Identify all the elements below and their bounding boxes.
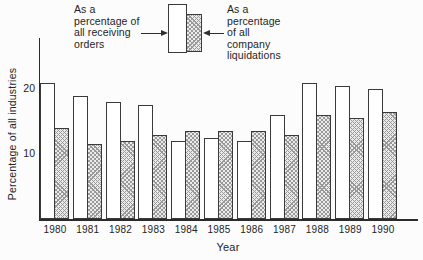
bar-company-liquidations-1986 [251, 131, 266, 219]
legend-label-company-liquidations: As a percentage of all company liquidati… [227, 4, 281, 62]
bar-receiving-orders-1988 [302, 83, 317, 220]
legend-arrow-right-icon [141, 33, 161, 34]
bar-receiving-orders-1986 [237, 141, 252, 219]
bar-receiving-orders-1980 [40, 83, 55, 220]
x-tick-1987: 1987 [268, 224, 302, 235]
x-axis-title: Year [178, 241, 278, 253]
bar-receiving-orders-1990 [368, 89, 383, 219]
x-tick-1982: 1982 [104, 224, 138, 235]
x-tick-1980: 1980 [38, 224, 72, 235]
bar-company-liquidations-1988 [316, 115, 331, 219]
bar-receiving-orders-1981 [73, 96, 88, 220]
x-tick-1985: 1985 [202, 224, 236, 235]
legend-label-receiving-orders: As a percentage of all receiving orders [74, 4, 140, 50]
x-tick-1986: 1986 [235, 224, 269, 235]
x-tick-1989: 1989 [333, 224, 367, 235]
y-tick-10: 10 [14, 147, 35, 159]
bar-receiving-orders-1989 [335, 86, 350, 219]
x-tick-1984: 1984 [169, 224, 203, 235]
bar-company-liquidations-1989 [349, 118, 364, 219]
legend-arrow-left-icon [210, 33, 224, 34]
bar-receiving-orders-1983 [138, 105, 153, 219]
legend-swatch-receiving-orders [168, 4, 187, 53]
bar-company-liquidations-1983 [152, 135, 167, 220]
x-tick-1988: 1988 [300, 224, 334, 235]
legend-swatch-company-liquidations [186, 14, 202, 52]
bar-company-liquidations-1981 [87, 144, 102, 219]
bar-receiving-orders-1985 [204, 138, 219, 219]
bar-company-liquidations-1982 [120, 141, 135, 219]
y-tick-20: 20 [14, 82, 35, 94]
x-tick-1981: 1981 [71, 224, 105, 235]
bar-receiving-orders-1984 [171, 141, 186, 219]
bar-receiving-orders-1982 [106, 102, 121, 219]
x-tick-1983: 1983 [136, 224, 170, 235]
x-axis-line [39, 219, 418, 221]
y-axis-title: Percentage of all industries [6, 44, 20, 224]
bar-company-liquidations-1985 [218, 131, 233, 219]
insolvency-bar-chart-figure: As a percentage of all receiving orders … [0, 0, 423, 260]
x-tick-1990: 1990 [366, 224, 400, 235]
bar-company-liquidations-1990 [382, 112, 397, 219]
bar-company-liquidations-1980 [54, 128, 69, 219]
bar-company-liquidations-1987 [284, 135, 299, 220]
bar-receiving-orders-1987 [270, 115, 285, 219]
bar-company-liquidations-1984 [185, 131, 200, 219]
